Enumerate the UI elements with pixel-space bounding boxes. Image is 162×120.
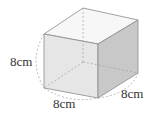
depth-label: 8cm bbox=[121, 86, 143, 101]
width-label: 8cm bbox=[53, 96, 75, 111]
front-face bbox=[44, 34, 98, 98]
height-arc bbox=[36, 34, 44, 88]
height-label: 8cm bbox=[10, 54, 32, 69]
cube-diagram: 8cm 8cm 8cm bbox=[0, 0, 162, 120]
